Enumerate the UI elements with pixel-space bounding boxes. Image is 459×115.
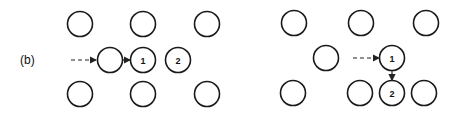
- particle: [68, 12, 93, 37]
- particle: [314, 46, 339, 71]
- particle: [282, 11, 307, 36]
- particle: [412, 81, 437, 106]
- particle: [348, 81, 373, 106]
- particle-number: 2: [175, 56, 180, 66]
- particle: [195, 12, 220, 37]
- particle: [281, 81, 306, 106]
- particle-number: 1: [389, 54, 394, 64]
- particle-collision-diagram: (b) 12 12: [0, 0, 459, 115]
- particle: [414, 11, 439, 36]
- particle-number: 1: [140, 56, 145, 66]
- right-panel: 12: [281, 11, 439, 106]
- particle: [68, 82, 93, 107]
- particle: [195, 82, 220, 107]
- particle: [131, 82, 156, 107]
- left-panel: 12: [68, 12, 220, 107]
- panel-label: (b): [20, 53, 35, 67]
- particle: [98, 48, 123, 73]
- particle: [349, 11, 374, 36]
- particle: [131, 12, 156, 37]
- particle-number: 2: [389, 89, 394, 99]
